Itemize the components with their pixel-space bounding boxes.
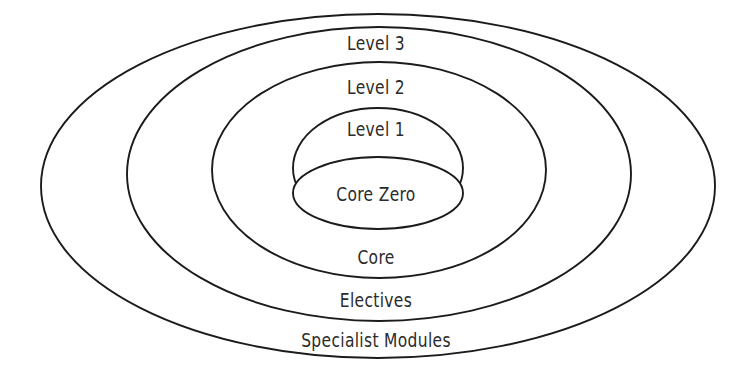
band-label-specialist-modules: Specialist Modules (53, 330, 700, 350)
curriculum-structure-diagram: Level 3 Level 2 Level 1 Core Zero Core E… (0, 0, 752, 374)
band-label-level-3: Level 3 (53, 33, 700, 53)
band-label-electives: Electives (53, 290, 700, 310)
band-label-core-zero: Core Zero (53, 184, 700, 204)
band-label-level-1: Level 1 (53, 119, 700, 139)
band-label-core: Core (53, 247, 700, 267)
band-label-level-2: Level 2 (53, 77, 700, 97)
